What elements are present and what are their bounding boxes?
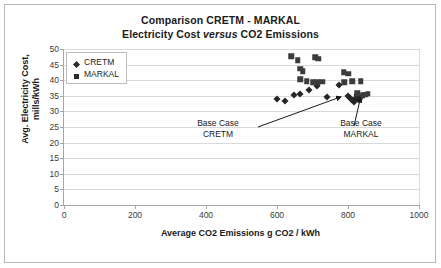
gridline (64, 49, 419, 50)
gridline (64, 143, 419, 144)
annotation-base-case-cretm: Base Case CRETM (175, 118, 261, 140)
data-point-markal (354, 91, 360, 97)
x-tick-label: 400 (199, 210, 213, 220)
gridline (64, 158, 419, 159)
data-point-cretm (305, 87, 312, 94)
chart-subtitle: Electricity Cost versus CO2 Emissions (0, 28, 441, 40)
x-tick-mark (64, 205, 65, 209)
gridline (64, 189, 419, 190)
x-tick-mark (348, 205, 349, 209)
y-tick-mark (60, 49, 64, 50)
chart-subtitle-prefix: Electricity Cost (122, 28, 203, 40)
y-tick-label: 5 (54, 184, 59, 194)
data-point-markal (315, 56, 321, 62)
y-tick-mark (60, 96, 64, 97)
legend-item-cretm: CRETM (71, 56, 119, 68)
annotation-cretm-line2: CRETM (203, 129, 233, 139)
x-tick-mark (206, 205, 207, 209)
y-tick-label: 15 (50, 153, 59, 163)
diamond-marker-icon (71, 56, 81, 68)
chart-figure: Comparison CRETM - MARKAL Electricity Co… (0, 0, 441, 268)
y-axis-title-line2: mills/kWh (31, 78, 41, 120)
x-tick-mark (277, 205, 278, 209)
chart-title: Comparison CRETM - MARKAL (0, 14, 441, 26)
x-tick-label: 800 (341, 210, 355, 220)
y-tick-mark (60, 174, 64, 175)
data-point-markal (295, 57, 301, 63)
data-point-markal (320, 79, 326, 85)
annotation-markal-line2: MARKAL (344, 129, 379, 139)
annotation-markal-line1: Base Case (340, 118, 382, 128)
y-tick-label: 50 (50, 44, 59, 54)
legend-item-markal: MARKAL (71, 68, 119, 80)
square-marker-icon (71, 68, 81, 80)
chart-legend: CRETM MARKAL (66, 52, 127, 84)
data-point-markal (304, 79, 310, 85)
annotation-cretm-line1: Base Case (197, 118, 239, 128)
y-tick-mark (60, 158, 64, 159)
legend-label-markal: MARKAL (84, 68, 119, 80)
y-tick-mark (60, 65, 64, 66)
data-point-markal (345, 71, 351, 77)
y-tick-label: 40 (50, 75, 59, 85)
x-tick-label: 1000 (410, 210, 429, 220)
y-tick-label: 25 (50, 122, 59, 132)
data-point-markal (288, 54, 294, 60)
y-axis-title-line1: Avg. Electricity Cost, (20, 54, 30, 144)
x-tick-mark (135, 205, 136, 209)
y-tick-label: 0 (54, 200, 59, 210)
x-tick-label: 200 (128, 210, 142, 220)
y-tick-label: 30 (50, 106, 59, 116)
y-tick-label: 45 (50, 60, 59, 70)
y-tick-mark (60, 80, 64, 81)
x-tick-label: 600 (270, 210, 284, 220)
y-tick-label: 20 (50, 138, 59, 148)
data-point-markal (350, 79, 356, 85)
y-tick-mark (60, 189, 64, 190)
annotation-base-case-markal: Base Case MARKAL (326, 118, 396, 140)
legend-label-cretm: CRETM (84, 56, 114, 68)
y-tick-mark (60, 127, 64, 128)
gridline (64, 174, 419, 175)
y-tick-mark (60, 143, 64, 144)
y-tick-label: 10 (50, 169, 59, 179)
plot-frame-right (419, 49, 420, 205)
data-point-cretm (324, 93, 331, 100)
x-tick-mark (419, 205, 420, 209)
data-point-markal (358, 79, 364, 85)
x-axis-title: Average CO2 Emissions g CO2 / kWh (63, 228, 418, 238)
y-axis-title: Avg. Electricity Cost, mills/kWh (20, 19, 42, 179)
chart-subtitle-suffix: CO2 Emissions (238, 28, 319, 40)
data-point-cretm (281, 98, 288, 105)
y-tick-label: 35 (50, 91, 59, 101)
gridline (64, 111, 419, 112)
data-point-markal (365, 91, 371, 97)
data-point-markal (298, 77, 304, 83)
data-point-markal (342, 79, 348, 85)
y-tick-mark (60, 111, 64, 112)
x-tick-label: 0 (62, 210, 67, 220)
data-point-markal (300, 69, 306, 75)
chart-subtitle-italic: versus (203, 28, 237, 40)
